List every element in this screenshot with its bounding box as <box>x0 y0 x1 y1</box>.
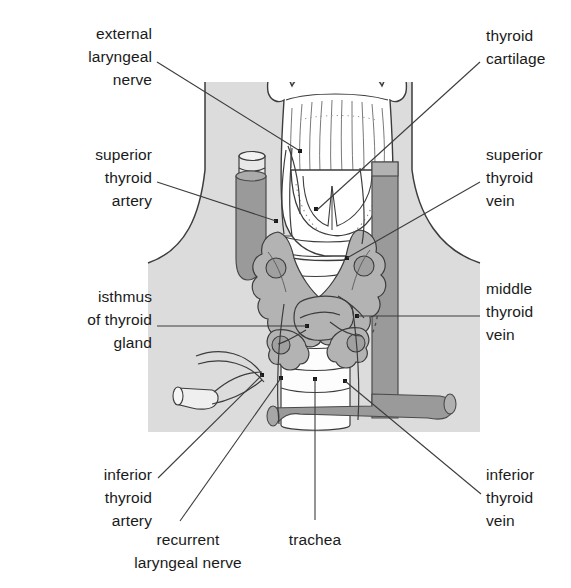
anatomy-figure: external laryngeal nervethyroid cartilag… <box>0 0 571 588</box>
label-middle-thyroid-vein: middle thyroid vein <box>486 277 571 346</box>
label-recurrent-laryngeal-nerve: recurrent laryngeal nerve <box>108 528 268 574</box>
label-inferior-thyroid-vein: inferior thyroid vein <box>486 463 571 532</box>
label-trachea: trachea <box>275 528 355 551</box>
label-inferior-thyroid-artery: inferior thyroid artery <box>38 463 152 532</box>
label-external-laryngeal-nerve: external laryngeal nerve <box>22 22 152 91</box>
label-superior-thyroid-vein: superior thyroid vein <box>486 143 571 212</box>
label-isthmus-of-thyroid-gland: isthmus of thyroid gland <box>30 285 152 354</box>
label-superior-thyroid-artery: superior thyroid artery <box>38 143 152 212</box>
label-thyroid-cartilage: thyroid cartilage <box>486 24 571 70</box>
